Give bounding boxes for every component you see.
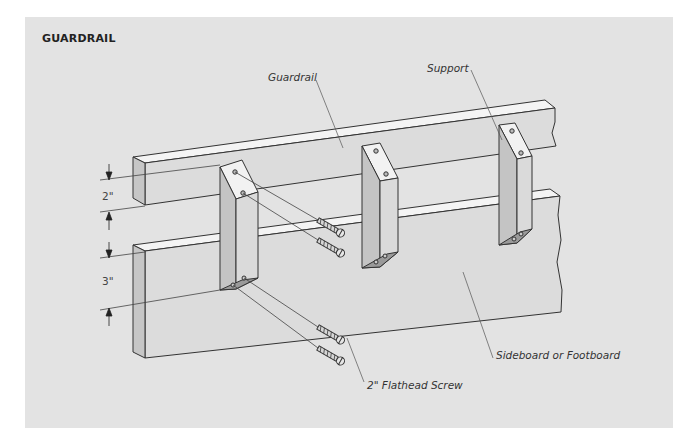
gap-dimension: 2" [102, 190, 114, 202]
guardrail-label: Guardrail [268, 71, 317, 83]
sideboard-label: Sideboard or Footboard [496, 349, 620, 361]
sideboard-board [133, 189, 562, 358]
support-left [220, 160, 258, 290]
support-label: Support [427, 62, 469, 74]
rail-height-dimension: 3" [102, 275, 114, 287]
screw-label: 2" Flathead Screw [367, 379, 463, 391]
dimension-arrows [106, 164, 112, 326]
guardrail-board [133, 100, 556, 205]
guardrail-diagram: 2" 3" Guardrail Support Sideboard or Foo… [0, 0, 684, 446]
